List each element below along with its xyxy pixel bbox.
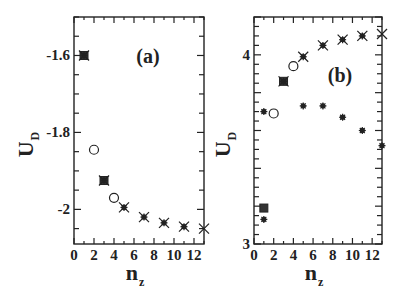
asterisk-marker [260, 216, 267, 223]
asterisk-marker [81, 52, 88, 59]
asterisk-marker [260, 108, 267, 115]
asterisk-marker [141, 214, 148, 221]
y-tick-label: -1.6 [46, 47, 70, 63]
x-tick-label: 4 [290, 247, 298, 263]
x-tick-label: 0 [250, 247, 258, 263]
y-tick-label: -1.8 [46, 124, 70, 140]
x-tick-label: 0 [70, 247, 78, 263]
panel-a: 024681012-1.6-1.8-2nzUD(a) [13, 17, 209, 289]
chart-canvas: 024681012-1.6-1.8-2nzUD(a) 02468101234nz… [0, 0, 401, 300]
asterisk-marker [161, 219, 168, 226]
square-marker [260, 204, 268, 212]
figure: 024681012-1.6-1.8-2nzUD(a) 02468101234nz… [0, 0, 401, 300]
asterisk-marker [101, 177, 108, 184]
x-tick-label: 2 [90, 247, 98, 263]
y-axis-label: UD [13, 131, 42, 157]
svg-text:UD: UD [210, 131, 239, 157]
circle-marker [90, 145, 99, 154]
asterisk-marker [181, 223, 188, 230]
y-tick-label: -2 [58, 201, 71, 217]
x-tick-label: 10 [345, 247, 360, 263]
panel-label: (a) [136, 45, 159, 68]
x-axis-label: nz [126, 260, 145, 289]
x-tick-label: 8 [150, 247, 158, 263]
x-tick-label: 12 [187, 247, 202, 263]
y-tick-label: 4 [243, 47, 251, 63]
x-tick-label: 12 [365, 247, 380, 263]
asterisk-marker [319, 102, 326, 109]
x-tick-label: 10 [167, 247, 182, 263]
asterisk-marker [300, 102, 307, 109]
asterisk-marker [339, 36, 346, 43]
circle-marker [269, 109, 278, 118]
circle-marker [289, 62, 298, 71]
panel-b: 02468101234nzUD(b) [210, 17, 387, 289]
asterisk-marker [339, 114, 346, 121]
x-axis-label: nz [305, 260, 324, 289]
svg-text:UD: UD [13, 131, 42, 157]
x-tick-label: 2 [270, 247, 278, 263]
asterisk-marker [319, 42, 326, 49]
x-tick-label: 4 [110, 247, 118, 263]
circle-marker [110, 193, 119, 202]
asterisk-marker [359, 32, 366, 39]
asterisk-marker [121, 204, 128, 211]
asterisk-marker [379, 142, 386, 149]
asterisk-marker [300, 53, 307, 60]
y-tick-label: 3 [243, 236, 251, 252]
x-tick-label: 8 [329, 247, 337, 263]
asterisk-marker [280, 78, 287, 85]
y-axis-label: UD [210, 131, 239, 157]
asterisk-marker [359, 127, 366, 134]
panel-label: (b) [328, 64, 352, 87]
